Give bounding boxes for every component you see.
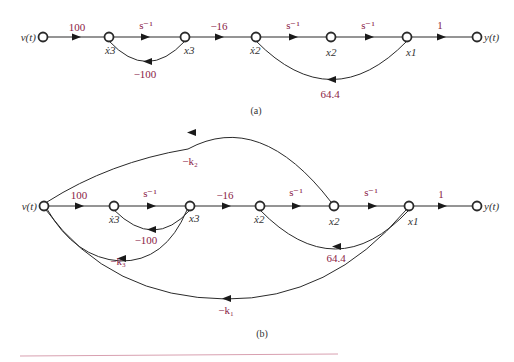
gain-label: 100 — [69, 21, 86, 33]
node-label: v(t) — [22, 200, 38, 213]
gain-label: −k₃ — [110, 255, 126, 267]
arrow-icon — [222, 295, 231, 302]
gain-label: 1 — [437, 19, 443, 31]
gain-label: −16 — [216, 189, 234, 201]
arrow-icon — [289, 34, 298, 41]
gain-label: −k₂ — [182, 155, 198, 167]
arrow-icon — [222, 203, 231, 210]
caption-a: (a) — [250, 105, 261, 117]
gain-label: 64.4 — [326, 252, 346, 264]
edge-a-x3-x3dot — [109, 41, 185, 62]
arrow-icon — [147, 226, 156, 233]
node-label: x1 — [407, 215, 418, 227]
signal-flow-graphs: v(t) ẋ3 x3 ẋ2 x2 x1 y(t) 100 s⁻¹ −16 s⁻¹… — [0, 0, 514, 362]
node-label: x3 — [183, 44, 195, 56]
node-a-v — [39, 33, 48, 42]
diagram-b: v(t) ẋ3 x3 ẋ2 x2 x1 y(t) 100 s⁻¹ −16 s⁻¹… — [22, 129, 500, 340]
arrow-icon — [143, 58, 152, 65]
caption-b: (b) — [256, 328, 268, 340]
node-label: ẋ3 — [108, 213, 120, 225]
node-label: y(t) — [483, 31, 500, 44]
node-label: ẋ3 — [104, 44, 116, 56]
arrow-icon — [187, 129, 196, 136]
node-label: x1 — [405, 46, 416, 58]
arrow-icon — [438, 203, 447, 210]
node-b-x3dot — [110, 202, 119, 211]
gain-label: −100 — [134, 68, 157, 80]
divider — [20, 354, 338, 356]
arrow-icon — [147, 203, 156, 210]
arrow-icon — [141, 34, 150, 41]
gain-label: −k₁ — [218, 304, 234, 316]
node-label: ẋ2 — [253, 213, 265, 225]
arrow-icon — [215, 34, 224, 41]
gain-label: s⁻¹ — [143, 187, 157, 199]
arrow-icon — [75, 203, 84, 210]
arrow-icon — [72, 34, 81, 41]
node-label: y(t) — [483, 200, 500, 213]
gain-label: −100 — [135, 234, 158, 246]
gain-label: −16 — [210, 20, 228, 32]
node-a-x3dot — [105, 33, 114, 42]
node-label: x3 — [188, 212, 200, 224]
node-b-x2 — [330, 202, 339, 211]
gain-label: s⁻¹ — [139, 19, 153, 31]
gain-label: s⁻¹ — [361, 19, 375, 31]
arrow-icon — [327, 76, 336, 83]
edge-b-x1-v — [46, 210, 406, 299]
node-label: x2 — [328, 215, 340, 227]
node-a-x2dot — [252, 33, 261, 42]
node-a-x2 — [327, 33, 336, 42]
node-b-v — [40, 202, 49, 211]
gain-label: 1 — [438, 188, 444, 200]
node-a-x1 — [403, 33, 412, 42]
arrow-icon — [292, 203, 301, 210]
arrow-icon — [368, 203, 377, 210]
gain-label: s⁻¹ — [286, 19, 300, 31]
arrow-icon — [437, 34, 446, 41]
gain-label: 64.4 — [320, 88, 340, 100]
node-a-y — [473, 33, 482, 42]
node-label: ẋ2 — [249, 44, 261, 56]
node-b-x2dot — [256, 202, 265, 211]
gain-label: 100 — [71, 189, 88, 201]
node-b-x3 — [186, 202, 195, 211]
diagram-a: v(t) ẋ3 x3 ẋ2 x2 x1 y(t) 100 s⁻¹ −16 s⁻¹… — [21, 19, 500, 117]
node-label: x2 — [325, 46, 337, 58]
node-b-x1 — [405, 202, 414, 211]
node-label: v(t) — [21, 31, 37, 44]
gain-label: s⁻¹ — [289, 186, 303, 198]
node-a-x3 — [181, 33, 190, 42]
node-b-y — [473, 202, 482, 211]
arrow-icon — [365, 34, 374, 41]
gain-label: s⁻¹ — [364, 186, 378, 198]
